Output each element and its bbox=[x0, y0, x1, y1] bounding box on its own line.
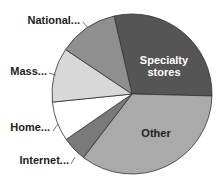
label-internet: Internet... bbox=[19, 154, 69, 166]
pie-slices bbox=[52, 14, 212, 174]
leader-line-internet bbox=[71, 157, 75, 164]
label-specialty-line1: Specialty bbox=[140, 54, 189, 66]
label-mass: Mass... bbox=[10, 65, 47, 77]
label-national: National... bbox=[27, 14, 80, 26]
label-home: Home... bbox=[10, 121, 50, 133]
leader-line-national bbox=[83, 22, 88, 28]
leader-line-home bbox=[53, 124, 58, 131]
label-specialty-line2: stores bbox=[147, 66, 180, 78]
pie-chart: Specialty stores Other National... Mass.… bbox=[0, 0, 224, 187]
label-other: Other bbox=[141, 127, 171, 139]
